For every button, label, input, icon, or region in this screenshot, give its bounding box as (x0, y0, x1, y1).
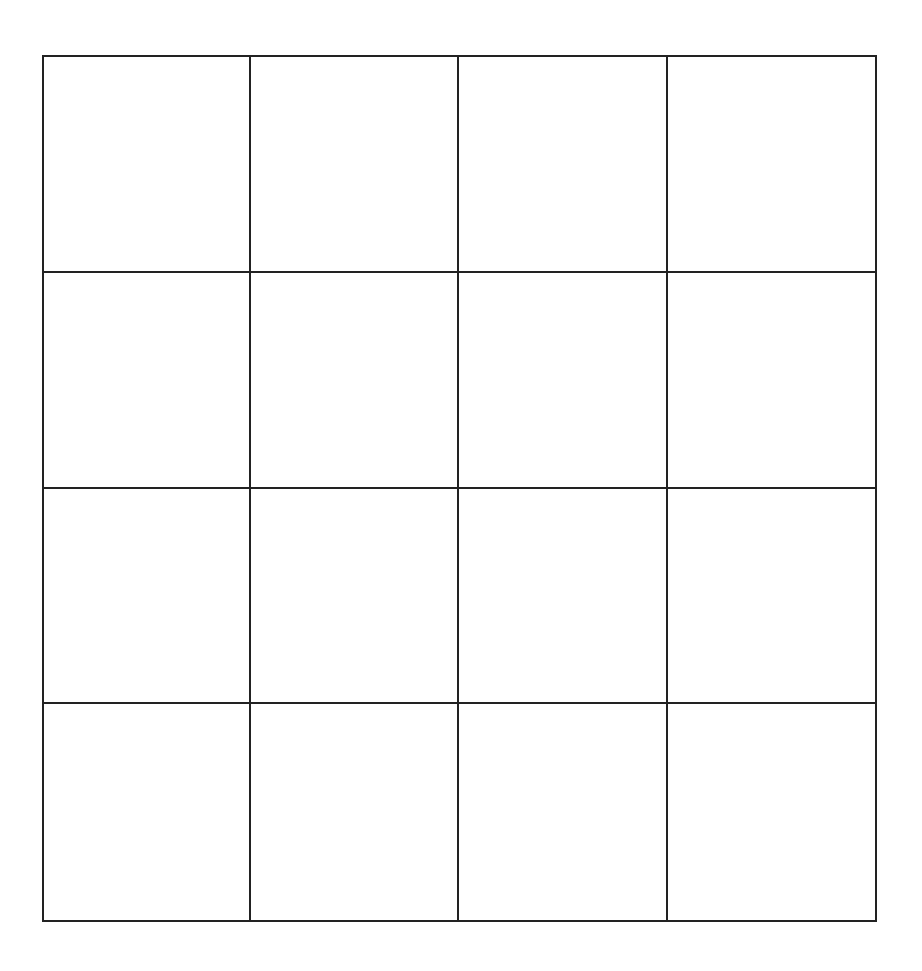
grid-diagram (43, 56, 876, 921)
grid-lines (43, 56, 876, 921)
